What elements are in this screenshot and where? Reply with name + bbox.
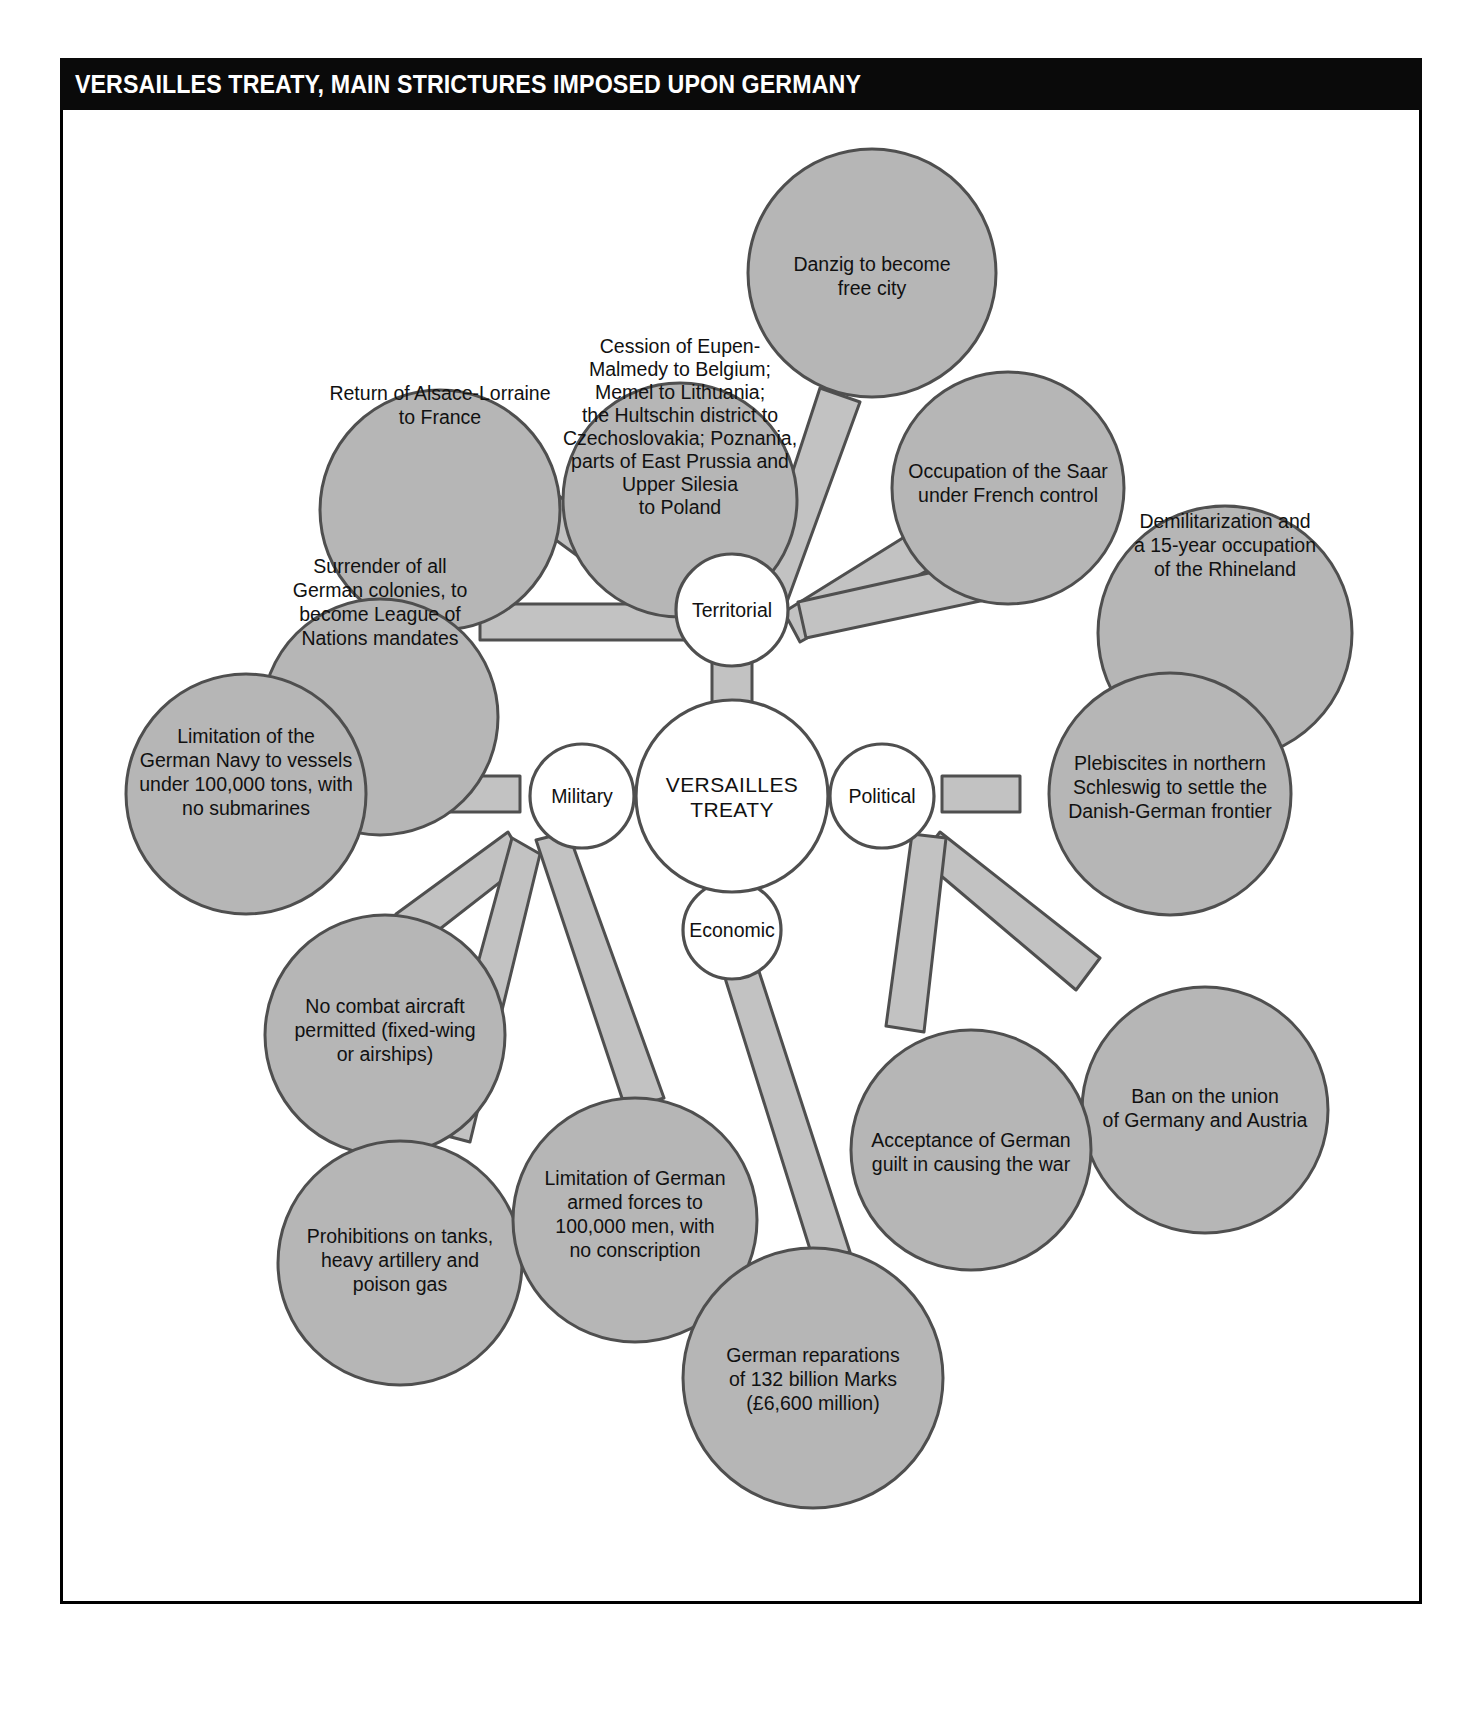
bubble-line-3: or airships) — [337, 1043, 433, 1065]
bubble-line-3: become League of — [299, 603, 461, 625]
bubble-saar[interactable]: Occupation of the Saar under French cont… — [892, 372, 1124, 604]
mind-map-diagram: Return of Alsace-Lorraine to France Cess… — [60, 110, 1422, 1604]
bubble-war-guilt[interactable]: Acceptance of German guilt in causing th… — [851, 1030, 1091, 1270]
bubble-line-5: Czechoslovakia; Poznania, — [563, 427, 797, 449]
connector-military-armedforces — [536, 832, 664, 1110]
node-label: Political — [848, 785, 915, 807]
bubble-line-2: to France — [399, 406, 481, 428]
bubble-danzig[interactable]: Danzig to become free city — [748, 149, 996, 397]
bubble-line-3: under 100,000 tons, with — [139, 773, 353, 795]
bubble-line-4: no submarines — [182, 797, 310, 819]
bubble-line-3: Danish-German frontier — [1068, 800, 1272, 822]
bubble-line-2: Malmedy to Belgium; — [589, 358, 771, 380]
bubble-line-2: under French control — [918, 484, 1098, 506]
bubble-line-7: Upper Silesia — [622, 473, 738, 495]
bubble-line-3: of the Rhineland — [1154, 558, 1296, 580]
bubble-line-1: Return of Alsace-Lorraine — [329, 382, 550, 404]
bubble-navy[interactable]: Limitation of the German Navy to vessels… — [126, 674, 366, 914]
bubble-line-1: German reparations — [726, 1344, 900, 1366]
bubble-line-2: guilt in causing the war — [872, 1153, 1071, 1175]
bubble-aircraft[interactable]: No combat aircraft permitted (fixed-wing… — [265, 915, 505, 1155]
node-shape — [636, 700, 828, 892]
bubble-tanks[interactable]: Prohibitions on tanks, heavy artillery a… — [278, 1141, 522, 1385]
bubble-line-2: Schleswig to settle the — [1073, 776, 1267, 798]
bubble-line-1: Prohibitions on tanks, — [307, 1225, 493, 1247]
page-root: VERSAILLES TREATY, MAIN STRICTURES IMPOS… — [0, 0, 1482, 1714]
bubble-line-3: Memel to Lithuania; — [595, 381, 765, 403]
node-economic[interactable]: Economic — [683, 881, 781, 979]
node-label: Military — [551, 785, 613, 807]
node-territorial[interactable]: Territorial — [676, 554, 788, 666]
bubble-line-3: poison gas — [353, 1273, 448, 1295]
bubble-line-3: 100,000 men, with — [555, 1215, 714, 1237]
title-bar: VERSAILLES TREATY, MAIN STRICTURES IMPOS… — [60, 58, 1422, 110]
bubble-line-8: to Poland — [639, 496, 721, 518]
connector-political-plebiscites — [942, 776, 1020, 812]
center-label-line-2: TREATY — [690, 798, 774, 821]
diagram-svg: Return of Alsace-Lorraine to France Cess… — [60, 110, 1422, 1604]
bubble-line-2: German colonies, to — [293, 579, 468, 601]
bubble-line-2: of Germany and Austria — [1103, 1109, 1308, 1131]
node-military[interactable]: Military — [530, 744, 634, 848]
bubble-line-1: Occupation of the Saar — [908, 460, 1108, 482]
bubble-line-2: free city — [838, 277, 907, 299]
bubble-line-1: Limitation of German — [545, 1167, 726, 1189]
bubble-line-2: of 132 billion Marks — [729, 1368, 897, 1390]
bubble-line-1: Acceptance of German — [871, 1129, 1070, 1151]
bubble-union-ban[interactable]: Ban on the union of Germany and Austria — [1082, 987, 1328, 1233]
bubble-line-1: Plebiscites in northern — [1074, 752, 1266, 774]
bubble-line-4: the Hultschin district to — [582, 404, 778, 426]
bubble-reparations[interactable]: German reparations of 132 billion Marks … — [683, 1248, 943, 1508]
bubble-line-1: Cession of Eupen- — [600, 335, 760, 357]
bubble-line-4: no conscription — [569, 1239, 700, 1261]
bubble-line-2: German Navy to vessels — [140, 749, 353, 771]
center-label-line-1: VERSAILLES — [666, 773, 798, 796]
bubble-line-6: parts of East Prussia and — [571, 450, 789, 472]
bubble-line-2: a 15-year occupation — [1134, 534, 1316, 556]
bubble-line-2: armed forces to — [567, 1191, 703, 1213]
node-label: Economic — [689, 919, 775, 941]
node-political[interactable]: Political — [830, 744, 934, 848]
bubble-line-1: Danzig to become — [793, 253, 950, 275]
bubble-line-2: permitted (fixed-wing — [295, 1019, 476, 1041]
connector-political-warguilt — [886, 834, 946, 1032]
bubble-line-1: Limitation of the — [177, 725, 315, 747]
bubble-line-1: Surrender of all — [313, 555, 446, 577]
page-title: VERSAILLES TREATY, MAIN STRICTURES IMPOS… — [60, 70, 861, 99]
bubble-line-1: Demilitarization and — [1139, 510, 1310, 532]
bubble-line-1: Ban on the union — [1131, 1085, 1278, 1107]
node-center-versailles-treaty[interactable]: VERSAILLES TREATY — [636, 700, 828, 892]
bubble-line-1: No combat aircraft — [305, 995, 465, 1017]
node-label: Territorial — [692, 599, 772, 621]
bubble-line-4: Nations mandates — [301, 627, 458, 649]
bubble-line-2: heavy artillery and — [321, 1249, 479, 1271]
bubble-line-3: (£6,600 million) — [746, 1392, 879, 1414]
bubble-plebiscites[interactable]: Plebiscites in northern Schleswig to set… — [1049, 673, 1291, 915]
